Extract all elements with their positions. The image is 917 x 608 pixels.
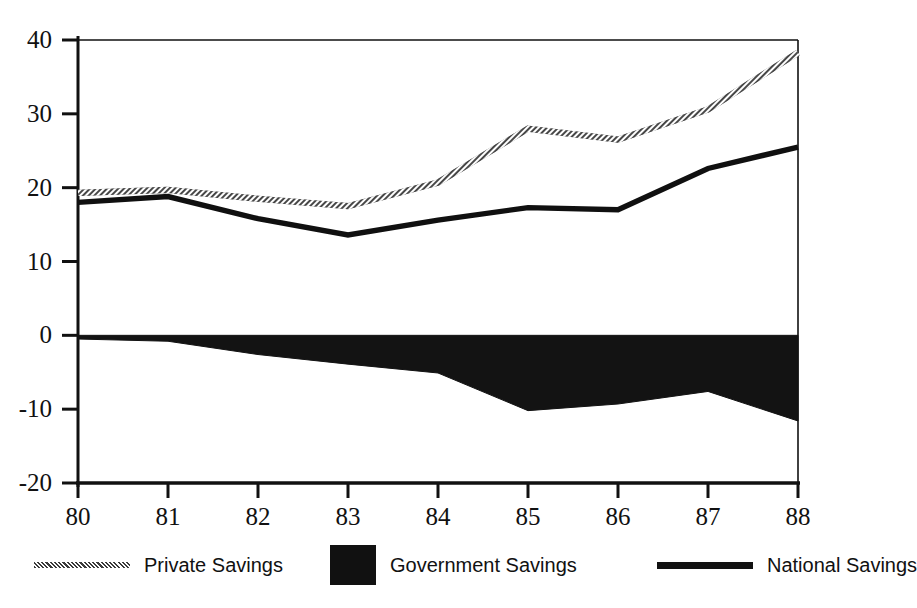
y-tick-label: -20 [0,470,52,495]
series-government-savings-area [78,335,798,421]
x-tick-label: 82 [228,504,288,529]
x-tick-label: 87 [678,504,738,529]
y-tick-label: 0 [0,322,52,347]
national-savings-swatch-icon [657,562,753,569]
x-tick-label: 88 [768,504,828,529]
legend-label-government-savings: Government Savings [390,554,577,577]
y-tick-label: 40 [0,27,52,52]
legend-item-national-savings: National Savings [657,548,917,582]
x-tick-label: 80 [48,504,108,529]
y-axis-ticks [62,40,78,483]
x-axis-ticks [78,483,798,498]
legend-label-national-savings: National Savings [767,554,917,577]
axes-frame [76,36,800,487]
y-tick-label: -10 [0,396,52,421]
x-tick-label: 81 [138,504,198,529]
legend-label-private-savings: Private Savings [144,554,283,577]
x-tick-label: 83 [318,504,378,529]
y-tick-label: 20 [0,175,52,200]
x-tick-label: 85 [498,504,558,529]
legend-item-private-savings: Private Savings [34,548,283,582]
series-private-savings-line [78,53,798,207]
legend-item-government-savings: Government Savings [330,548,577,582]
government-savings-swatch-icon [330,545,376,585]
y-tick-label: 30 [0,101,52,126]
private-savings-swatch-icon [34,562,130,568]
chart-legend: Private Savings Government Savings Natio… [0,548,859,588]
x-tick-label: 84 [408,504,468,529]
y-tick-label: 10 [0,249,52,274]
x-tick-label: 86 [588,504,648,529]
